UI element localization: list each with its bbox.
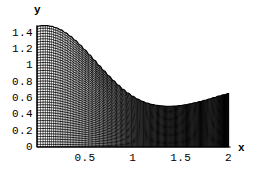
- x-tick-label: 2: [209, 153, 249, 164]
- plot-figure: y x 1.41.210.80.60.40.20 0.511.52: [0, 0, 254, 170]
- x-tick-label: 1.5: [161, 153, 201, 164]
- mesh-fill: [37, 16, 229, 147]
- y-axis-label: y: [34, 5, 41, 16]
- y-tick-label: 1.2: [0, 44, 33, 55]
- y-tick-label: 0.4: [0, 109, 33, 120]
- y-tick-label: 0.2: [0, 126, 33, 137]
- y-tick-label: 0.8: [0, 77, 33, 88]
- y-tick-label: 1: [0, 60, 33, 71]
- y-tick-label: 0.6: [0, 93, 33, 104]
- x-tick-label: 1: [113, 153, 153, 164]
- y-tick-label: 1.4: [0, 28, 33, 39]
- plot-canvas: [0, 0, 254, 170]
- x-tick-label: 0.5: [65, 153, 105, 164]
- y-tick-label: 0: [0, 142, 33, 153]
